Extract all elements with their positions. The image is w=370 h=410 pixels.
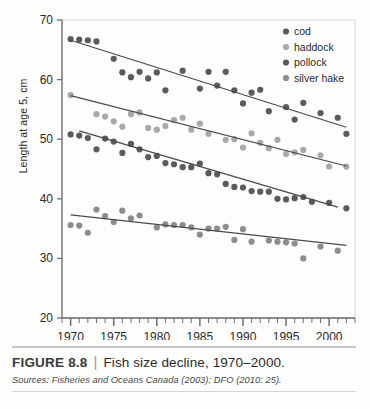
data-point — [343, 131, 349, 137]
caption-rule-bottom — [12, 391, 356, 392]
data-point — [223, 181, 229, 187]
legend-label: silver hake — [294, 72, 344, 84]
figure-container: 2030405060701970197519801985199019952000… — [0, 0, 370, 410]
data-point — [205, 170, 211, 176]
data-point — [292, 195, 298, 201]
data-point — [68, 222, 74, 228]
data-point — [205, 69, 211, 75]
y-tick-label: 70 — [40, 13, 54, 27]
figure-sources: Sources: Fisheries and Oceans Canada (20… — [12, 375, 360, 385]
data-point — [85, 230, 91, 236]
data-point — [119, 124, 125, 130]
data-point — [257, 189, 263, 195]
data-point — [111, 118, 117, 124]
data-point — [128, 215, 134, 221]
data-point — [240, 226, 246, 232]
y-axis-title: Length at age 5, cm — [17, 56, 29, 196]
sources-label: Sources: — [12, 375, 49, 385]
y-tick-label: 60 — [40, 73, 54, 87]
data-point — [300, 147, 306, 153]
data-point — [154, 69, 160, 75]
caption-separator: | — [94, 353, 98, 370]
data-point — [68, 131, 74, 137]
y-tick-label: 40 — [40, 192, 54, 206]
figure-caption: FIGURE 8.8 | Fish size decline, 1970–200… — [12, 346, 360, 392]
data-point — [335, 115, 341, 121]
data-point — [240, 144, 246, 150]
data-point — [171, 161, 177, 167]
data-point — [145, 75, 151, 81]
data-point — [162, 160, 168, 166]
data-point — [292, 240, 298, 246]
data-point — [343, 164, 349, 170]
data-point — [145, 125, 151, 131]
data-point — [248, 90, 254, 96]
data-point — [197, 231, 203, 237]
y-tick-label: 30 — [40, 251, 54, 265]
data-point — [223, 137, 229, 143]
data-point — [162, 221, 168, 227]
data-point — [93, 111, 99, 117]
data-point — [154, 127, 160, 133]
data-point — [76, 133, 82, 139]
data-point — [274, 239, 280, 245]
data-point — [292, 116, 298, 122]
scatter-plot: 2030405060701970197519801985199019952000… — [0, 0, 370, 340]
data-point — [266, 189, 272, 195]
legend-swatch — [283, 44, 289, 50]
data-point — [85, 37, 91, 43]
data-point — [180, 68, 186, 74]
data-point — [248, 239, 254, 245]
data-point — [300, 100, 306, 106]
x-tick-label: 1975 — [100, 330, 127, 340]
data-point — [223, 224, 229, 230]
data-point — [257, 87, 263, 93]
data-point — [128, 74, 134, 80]
data-point — [223, 69, 229, 75]
data-point — [231, 184, 237, 190]
data-point — [300, 255, 306, 261]
data-point — [154, 224, 160, 230]
data-point — [317, 243, 323, 249]
data-point — [162, 123, 168, 129]
chart-area: 2030405060701970197519801985199019952000… — [0, 0, 370, 340]
y-tick-label: 20 — [40, 311, 54, 325]
data-point — [136, 212, 142, 218]
data-point — [317, 110, 323, 116]
data-point — [248, 130, 254, 136]
data-point — [102, 113, 108, 119]
sources-text: Fisheries and Oceans Canada (2003); DFO … — [52, 375, 282, 385]
data-point — [136, 69, 142, 75]
data-point — [119, 150, 125, 156]
legend-label: pollock — [294, 56, 327, 68]
figure-number: FIGURE 8.8 — [12, 355, 88, 370]
data-point — [111, 56, 117, 62]
data-point — [162, 87, 168, 93]
legend-label: cod — [294, 25, 311, 37]
caption-title-line: FIGURE 8.8 | Fish size decline, 1970–200… — [12, 353, 360, 370]
data-point — [283, 151, 289, 157]
y-tick-label: 50 — [40, 132, 54, 146]
x-tick-label: 1970 — [57, 330, 84, 340]
data-point — [93, 146, 99, 152]
data-point — [119, 208, 125, 214]
x-tick-label: 2000 — [316, 330, 343, 340]
data-point — [85, 135, 91, 141]
data-point — [317, 152, 323, 158]
data-point — [266, 237, 272, 243]
data-point — [119, 69, 125, 75]
data-point — [343, 205, 349, 211]
data-point — [248, 188, 254, 194]
data-point — [180, 115, 186, 121]
data-point — [240, 100, 246, 106]
caption-rule-top — [12, 346, 356, 348]
x-tick-label: 1980 — [143, 330, 170, 340]
data-point — [240, 184, 246, 190]
data-point — [231, 237, 237, 243]
legend-swatch — [283, 59, 289, 65]
data-point — [76, 223, 82, 229]
figure-title: Fish size decline, 1970–2000. — [103, 355, 285, 370]
data-point — [283, 196, 289, 202]
legend-label: haddock — [294, 41, 334, 53]
data-point — [283, 239, 289, 245]
